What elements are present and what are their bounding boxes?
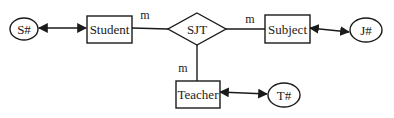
entity-student: Student (87, 16, 132, 43)
entity-subject-label: Subject (268, 22, 307, 37)
edge-teacher-t (220, 92, 267, 94)
attribute-s-key-label: S# (17, 22, 31, 37)
edge-student-sjt (132, 28, 168, 29)
cardinality-sjt-teacher: m (178, 61, 188, 75)
entity-subject: Subject (265, 15, 310, 43)
edge-subject-j (310, 28, 349, 32)
relationship-sjt: SJT (168, 13, 226, 45)
attribute-s-key: S# (10, 18, 38, 40)
relationship-sjt-label: SJT (187, 22, 207, 37)
er-diagram: S# Student m SJT m Subject J# m Teacher … (0, 0, 394, 118)
attribute-j-key: J# (350, 18, 382, 42)
entity-teacher-label: Teacher (178, 87, 220, 102)
cardinality-student-sjt: m (140, 8, 150, 22)
entity-student-label: Student (90, 22, 130, 37)
attribute-t-key: T# (268, 83, 300, 107)
cardinality-sjt-subject: m (245, 12, 255, 26)
attribute-t-key-label: T# (277, 88, 292, 103)
entity-teacher: Teacher (176, 81, 220, 108)
attribute-j-key-label: J# (360, 23, 372, 38)
